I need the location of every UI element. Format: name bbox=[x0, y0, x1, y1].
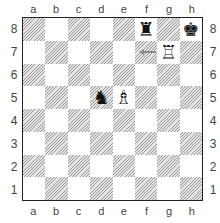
black-knight-icon: ♞ bbox=[90, 86, 112, 109]
square-b7 bbox=[45, 41, 67, 64]
square-g8 bbox=[157, 18, 179, 41]
rank-label: 2 bbox=[206, 155, 220, 178]
square-h4 bbox=[180, 109, 202, 132]
square-e3 bbox=[113, 132, 135, 155]
square-h8: ♚ bbox=[180, 18, 202, 41]
rank-label: 2 bbox=[7, 155, 21, 178]
square-b6 bbox=[45, 64, 67, 87]
square-f2 bbox=[135, 155, 157, 178]
square-f8: ♜ bbox=[135, 18, 157, 41]
square-c6 bbox=[68, 64, 90, 87]
square-f6 bbox=[135, 64, 157, 87]
black-king-icon: ♚ bbox=[180, 18, 202, 41]
square-b2 bbox=[45, 155, 67, 178]
square-e7 bbox=[113, 41, 135, 64]
file-label: h bbox=[180, 2, 203, 16]
square-g1 bbox=[157, 177, 179, 200]
square-e1 bbox=[113, 177, 135, 200]
square-f3 bbox=[135, 132, 157, 155]
square-e2 bbox=[113, 155, 135, 178]
file-label: e bbox=[113, 204, 136, 218]
file-label: c bbox=[67, 2, 90, 16]
file-labels-top: a b c d e f g h bbox=[22, 2, 203, 16]
rank-labels-left: 8 7 6 5 4 3 2 1 bbox=[7, 17, 21, 201]
file-label: d bbox=[90, 2, 113, 16]
square-f4 bbox=[135, 109, 157, 132]
rank-label: 7 bbox=[206, 40, 220, 63]
square-c4 bbox=[68, 109, 90, 132]
square-e4 bbox=[113, 109, 135, 132]
file-label: a bbox=[22, 204, 45, 218]
rank-label: 7 bbox=[7, 40, 21, 63]
square-g2 bbox=[157, 155, 179, 178]
square-h7 bbox=[180, 41, 202, 64]
square-b8 bbox=[45, 18, 67, 41]
file-label: g bbox=[158, 204, 181, 218]
rank-label: 6 bbox=[206, 63, 220, 86]
square-b4 bbox=[45, 109, 67, 132]
rank-label: 4 bbox=[7, 109, 21, 132]
square-a6 bbox=[23, 64, 45, 87]
rank-label: 5 bbox=[206, 86, 220, 109]
square-c3 bbox=[68, 132, 90, 155]
square-h3 bbox=[180, 132, 202, 155]
square-f7 bbox=[135, 41, 157, 64]
rank-label: 5 bbox=[7, 86, 21, 109]
file-label: d bbox=[90, 204, 113, 218]
square-d8 bbox=[90, 18, 112, 41]
chess-board: ♜♚♖♞♗ bbox=[22, 17, 203, 201]
file-label: f bbox=[135, 204, 158, 218]
square-c8 bbox=[68, 18, 90, 41]
square-e6 bbox=[113, 64, 135, 87]
square-a5 bbox=[23, 86, 45, 109]
square-f5 bbox=[135, 86, 157, 109]
square-h5 bbox=[180, 86, 202, 109]
square-d5: ♞ bbox=[90, 86, 112, 109]
file-label: c bbox=[67, 204, 90, 218]
square-g4 bbox=[157, 109, 179, 132]
square-e5: ♗ bbox=[113, 86, 135, 109]
square-h1 bbox=[180, 177, 202, 200]
square-d3 bbox=[90, 132, 112, 155]
rank-label: 1 bbox=[7, 178, 21, 201]
file-label: b bbox=[45, 204, 68, 218]
square-d4 bbox=[90, 109, 112, 132]
square-g7: ♖ bbox=[157, 41, 179, 64]
rank-label: 3 bbox=[7, 132, 21, 155]
square-c5 bbox=[68, 86, 90, 109]
file-label: b bbox=[45, 2, 68, 16]
file-label: a bbox=[22, 2, 45, 16]
square-a8 bbox=[23, 18, 45, 41]
square-a1 bbox=[23, 177, 45, 200]
black-rook-icon: ♜ bbox=[135, 18, 157, 41]
rank-label: 6 bbox=[7, 63, 21, 86]
white-rook-icon: ♖ bbox=[157, 41, 179, 64]
square-d1 bbox=[90, 177, 112, 200]
square-g3 bbox=[157, 132, 179, 155]
square-d7 bbox=[90, 41, 112, 64]
move-arrow-icon bbox=[139, 49, 156, 55]
square-h6 bbox=[180, 64, 202, 87]
square-g6 bbox=[157, 64, 179, 87]
rank-label: 8 bbox=[206, 17, 220, 40]
square-h2 bbox=[180, 155, 202, 178]
file-labels-bottom: a b c d e f g h bbox=[22, 204, 203, 218]
square-b5 bbox=[45, 86, 67, 109]
square-a7 bbox=[23, 41, 45, 64]
rank-labels-right: 8 7 6 5 4 3 2 1 bbox=[206, 17, 220, 201]
square-a2 bbox=[23, 155, 45, 178]
square-d2 bbox=[90, 155, 112, 178]
square-a3 bbox=[23, 132, 45, 155]
rank-label: 4 bbox=[206, 109, 220, 132]
file-label: e bbox=[113, 2, 136, 16]
square-c1 bbox=[68, 177, 90, 200]
square-b1 bbox=[45, 177, 67, 200]
square-a4 bbox=[23, 109, 45, 132]
file-label: h bbox=[180, 204, 203, 218]
file-label: f bbox=[135, 2, 158, 16]
square-d6 bbox=[90, 64, 112, 87]
square-b3 bbox=[45, 132, 67, 155]
square-c7 bbox=[68, 41, 90, 64]
square-c2 bbox=[68, 155, 90, 178]
white-bishop-icon: ♗ bbox=[113, 86, 135, 109]
